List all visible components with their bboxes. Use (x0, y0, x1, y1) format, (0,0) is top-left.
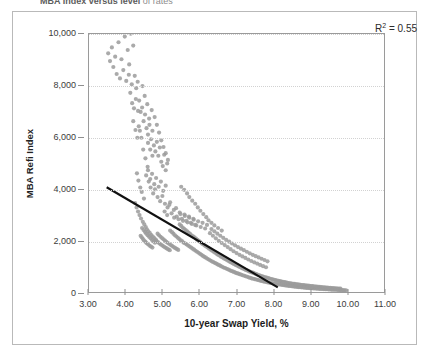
scatter-point (115, 72, 119, 76)
scatter-point (196, 219, 200, 223)
scatter-point (106, 51, 110, 55)
scatter-point (150, 129, 154, 133)
scatter-point (121, 68, 125, 72)
scatter-point (144, 173, 148, 177)
scatter-point (113, 55, 117, 59)
x-axis-tick-label: 10.00 (337, 299, 360, 309)
scatter-point (201, 212, 205, 216)
scatter-point (185, 191, 189, 195)
y-axis-tick-label: 10,000 (48, 28, 76, 38)
scatter-point (161, 145, 165, 149)
scatter-point (111, 65, 115, 69)
scatter-point (180, 217, 184, 221)
gridline (89, 242, 384, 243)
scatter-point (168, 248, 172, 252)
scatter-point (147, 117, 151, 121)
scatter-point (140, 105, 144, 109)
scatter-point (155, 123, 159, 127)
x-axis-tick-label: 8.00 (265, 299, 283, 309)
scatter-point (136, 178, 140, 182)
x-axis-tick-mark (385, 289, 386, 295)
scatter-point (152, 182, 156, 186)
x-axis-tick-mark (199, 289, 200, 295)
figure-caption: MBA Index versus level of rates (40, 0, 340, 8)
x-axis-tick-label: 3.00 (79, 299, 97, 309)
scatter-point (148, 177, 152, 181)
scatter-point (155, 195, 159, 199)
scatter-point (156, 154, 160, 158)
scatter-point (187, 215, 191, 219)
scatter-point (182, 213, 186, 217)
scatter-layer (89, 34, 384, 292)
scatter-point (123, 34, 127, 38)
scatter-point (205, 223, 209, 227)
scatter-point (134, 97, 138, 101)
scatter-point (148, 148, 152, 152)
plot-area (88, 33, 385, 293)
scatter-point (128, 91, 132, 95)
y-axis-tick-label: 4,000 (53, 184, 76, 194)
scatter-point (158, 145, 162, 149)
y-axis-tick-mark (78, 33, 84, 34)
scatter-point (265, 259, 269, 263)
scatter-point (190, 199, 194, 203)
scatter-point (141, 148, 145, 152)
caption-tail: of rates (140, 0, 173, 6)
scatter-point (138, 185, 142, 189)
gridline (89, 34, 384, 35)
scatter-point (132, 106, 136, 110)
y-axis-tick-mark (78, 137, 84, 138)
x-axis-tick-mark (125, 289, 126, 295)
scatter-point (153, 115, 157, 119)
scatter-point (196, 205, 200, 209)
y-axis-tick-label: 6,000 (53, 132, 76, 142)
scatter-point (165, 205, 169, 209)
x-axis-tick-label: 7.00 (228, 299, 246, 309)
scatter-point (184, 219, 188, 223)
scatter-point (127, 62, 131, 66)
scatter-point (172, 208, 176, 212)
scatter-point (198, 209, 202, 213)
caption-text: MBA Index versus level (40, 0, 140, 6)
scatter-points (106, 34, 348, 292)
y-axis-tick-mark (78, 293, 84, 294)
scatter-point (179, 185, 183, 189)
r-squared-annotation: R2 = 0.55 (375, 22, 417, 34)
scatter-point (160, 194, 164, 198)
scatter-point (220, 229, 224, 233)
scatter-point (193, 202, 197, 206)
scatter-point (131, 44, 135, 48)
y-axis-tick-mark (78, 189, 84, 190)
scatter-point (212, 223, 216, 227)
scatter-point (178, 210, 182, 214)
y-axis-labels: 02,0004,0006,0008,00010,000 (12, 33, 84, 293)
gridline (89, 138, 384, 139)
x-axis-tick-label: 5.00 (153, 299, 171, 309)
y-axis-tick-mark (78, 85, 84, 86)
scatter-point (126, 48, 130, 52)
scatter-point (152, 143, 156, 147)
scatter-point (136, 80, 140, 84)
scatter-point (193, 223, 197, 227)
scatter-point (159, 179, 163, 183)
scatter-point (264, 265, 268, 269)
scatter-point (157, 185, 161, 189)
scatter-point (175, 215, 179, 219)
scatter-point (133, 74, 137, 78)
scatter-point (150, 172, 154, 176)
scatter-point (143, 156, 147, 160)
scatter-point (133, 128, 137, 132)
scatter-point (150, 108, 154, 112)
scatter-point (189, 221, 193, 225)
scatter-point (153, 149, 157, 153)
scatter-point (142, 197, 146, 201)
scatter-point (165, 213, 169, 217)
scatter-point (216, 226, 220, 230)
scatter-point (143, 94, 147, 98)
scatter-point (200, 221, 204, 225)
scatter-point (150, 154, 154, 158)
figure-root: MBA Index versus level of rates MBA Refi… (0, 0, 431, 356)
x-axis-title: 10-year Swap Yield, % (88, 318, 385, 329)
scatter-point (127, 73, 131, 77)
scatter-point (164, 151, 168, 155)
